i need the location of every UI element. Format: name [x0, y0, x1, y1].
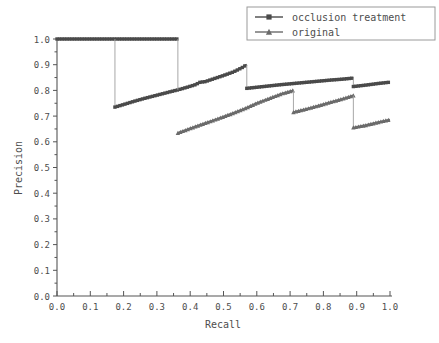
y-tick-label: 0.5	[34, 163, 50, 173]
x-tick-label: 0.1	[82, 302, 98, 312]
precision-recall-chart: 0.00.10.20.30.40.50.60.70.80.91.0 0.00.1…	[0, 0, 439, 343]
legend-square-marker	[266, 14, 271, 19]
y-tick-label: 0.2	[34, 240, 50, 250]
chart-legend: occlusion treatmentoriginal	[247, 7, 435, 40]
y-tick-label: 0.7	[34, 112, 50, 122]
square-marker	[387, 81, 390, 84]
y-tick-label: 0.3	[34, 214, 50, 224]
x-tick-label: 0.6	[249, 302, 265, 312]
x-tick-label: 0.0	[49, 302, 65, 312]
x-tick-label: 0.7	[282, 302, 298, 312]
x-tick-label: 0.2	[115, 302, 131, 312]
y-tick-label: 0.6	[34, 137, 50, 147]
chart-canvas: 0.00.10.20.30.40.50.60.70.80.91.0 0.00.1…	[0, 0, 439, 343]
x-tick-label: 0.4	[182, 302, 198, 312]
y-tick-label: 0.0	[34, 292, 50, 302]
y-tick-label: 0.8	[34, 86, 50, 96]
legend-label: original	[292, 27, 340, 38]
square-marker	[243, 64, 246, 67]
x-tick-label: 0.5	[215, 302, 231, 312]
square-marker	[350, 77, 353, 80]
x-tick-label: 0.3	[149, 302, 165, 312]
chart-background	[0, 0, 439, 343]
x-axis-title: Recall	[205, 319, 241, 330]
y-tick-label: 0.1	[34, 266, 50, 276]
x-tick-label: 1.0	[382, 302, 398, 312]
legend-label: occlusion treatment	[292, 12, 406, 23]
x-tick-label: 0.8	[315, 302, 331, 312]
x-tick-label: 0.9	[349, 302, 365, 312]
y-tick-label: 0.9	[34, 60, 50, 70]
y-tick-label: 0.4	[34, 189, 50, 199]
y-axis-title: Precision	[13, 141, 24, 195]
y-tick-label: 1.0	[34, 35, 50, 45]
